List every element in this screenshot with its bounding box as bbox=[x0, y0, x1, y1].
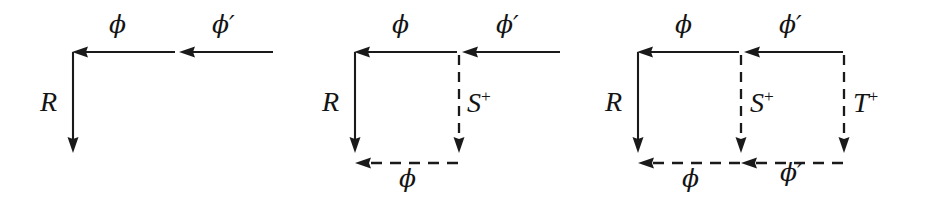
middle-diagram-label-Splus-sup: + bbox=[481, 87, 491, 106]
right-diagram-label-Splus-sup: + bbox=[764, 87, 774, 106]
left-diagram-label-R: R bbox=[40, 88, 57, 116]
middle-diagram-edge-R bbox=[350, 52, 361, 153]
right-diagram-label-Tplus: T+ bbox=[853, 88, 878, 117]
right-diagram-label-R: R bbox=[605, 88, 622, 116]
middle-diagram-label-phiprime-top: ϕ′ bbox=[496, 12, 519, 37]
right-diagram-label-Tplus-base: T bbox=[853, 87, 869, 118]
right-diagram-edge-phi-top bbox=[637, 47, 739, 58]
middle-diagram-label-R: R bbox=[322, 88, 339, 116]
figure-root: ϕ ϕ′ R ϕ ϕ′ R S+ ϕ ϕ ϕ′ R S+ T+ ϕ ϕ′ bbox=[0, 0, 926, 201]
right-diagram-label-phiprime-top: ϕ′ bbox=[779, 12, 802, 37]
right-diagram-edge-Tplus bbox=[839, 55, 850, 153]
middle-diagram-label-Splus: S+ bbox=[467, 88, 491, 117]
right-diagram-edge-R bbox=[633, 52, 644, 153]
right-diagram bbox=[633, 47, 850, 169]
right-diagram-edge-phiprime-top bbox=[744, 47, 843, 58]
middle-diagram-edge-Splus bbox=[454, 55, 465, 153]
right-diagram-label-Splus-base: S bbox=[750, 87, 764, 118]
right-diagram-label-Splus: S+ bbox=[750, 88, 774, 117]
middle-diagram-label-phi-top: ϕ bbox=[392, 12, 409, 37]
right-diagram-label-Tplus-sup: + bbox=[869, 87, 879, 106]
middle-diagram-edge-phiprime-top bbox=[462, 47, 560, 58]
right-diagram-edge-Splus bbox=[736, 55, 747, 153]
middle-diagram-edge-phi-top bbox=[354, 47, 457, 58]
left-diagram-label-phi-top: ϕ bbox=[109, 12, 126, 37]
middle-diagram-label-phi-bottom: ϕ bbox=[399, 166, 416, 191]
right-diagram-label-phi-bottom: ϕ bbox=[682, 166, 699, 191]
left-diagram-edge-phiprime-top bbox=[179, 47, 273, 58]
left-diagram bbox=[68, 47, 274, 154]
right-diagram-label-phi-top: ϕ bbox=[675, 12, 692, 37]
middle-diagram bbox=[350, 47, 561, 169]
left-diagram-edge-R bbox=[68, 52, 79, 153]
left-diagram-label-phiprime-top: ϕ′ bbox=[212, 12, 235, 37]
right-diagram-label-phiprime-bottom: ϕ′ bbox=[780, 160, 803, 185]
left-diagram-edge-phi-top bbox=[72, 47, 175, 58]
middle-diagram-label-Splus-base: S bbox=[467, 87, 481, 118]
